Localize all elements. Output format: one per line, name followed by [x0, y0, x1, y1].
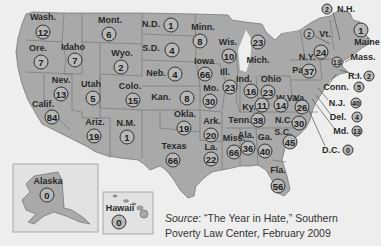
hate-group-count-badge-conn: 5: [354, 82, 365, 93]
hate-group-count-badge-alaska: 0: [40, 188, 55, 203]
state-label-conn: Conn.: [323, 83, 349, 92]
source-line1: : “The Year in Hate,” Southern: [198, 212, 338, 224]
state-label-idaho: Idaho: [61, 43, 85, 52]
state-label-calif: Calif.: [32, 100, 54, 109]
hate-group-count-badge-va: 26: [295, 100, 310, 115]
hate-group-count-badge-sc: 45: [283, 135, 298, 150]
hate-group-count-badge-fla: 56: [271, 179, 286, 194]
state-label-la: La.: [204, 143, 217, 152]
hate-group-count-badge-nc: 30: [292, 116, 307, 131]
state-label-ill: Ill.: [220, 68, 230, 77]
hate-group-count-badge-ark: 20: [204, 128, 219, 143]
state-label-okla: Okla.: [174, 110, 196, 119]
source-prefix: Source: [165, 212, 198, 224]
hate-group-count-badge-vt: 2: [304, 29, 315, 40]
state-label-ala: Ala.: [238, 131, 255, 140]
hate-group-count-badge-nev: 13: [54, 87, 69, 102]
state-label-ariz: Ariz.: [85, 118, 105, 127]
state-label-ohio: Ohio: [261, 75, 282, 84]
hate-group-count-badge-calif: 84: [45, 110, 60, 125]
state-label-mich: Mich.: [246, 56, 269, 65]
state-label-dc: D.C.: [322, 146, 340, 155]
state-label-mo: Mo.: [203, 84, 219, 93]
state-label-colo: Colo.: [119, 82, 142, 91]
state-label-nh: N.H.: [337, 5, 355, 14]
hate-group-count-badge-ala: 36: [241, 141, 256, 156]
hate-group-count-badge-wyo: 2: [114, 60, 129, 75]
hate-group-count-badge-wash: 12: [36, 25, 51, 40]
state-label-wash: Wash.: [30, 13, 56, 22]
state-label-nev: Nev.: [52, 76, 70, 85]
hate-group-count-badge-idaho: 7: [68, 53, 83, 68]
state-label-iowa: Iowa: [194, 57, 214, 66]
hate-group-count-badge-maine: 1: [354, 23, 369, 38]
hate-group-count-badge-iowa: 66: [198, 67, 213, 82]
state-label-hawaii: Hawaii: [106, 204, 135, 213]
state-label-tenn: Tenn.: [228, 116, 251, 125]
state-label-ark: Ark.: [203, 117, 221, 126]
hate-group-count-badge-mich: 23: [251, 35, 266, 50]
state-label-mont: Mont.: [98, 16, 122, 25]
hate-group-count-badge-minn: 8: [193, 34, 208, 49]
hate-group-count-badge-ore: 7: [34, 55, 49, 70]
state-label-nc: N.C.: [275, 116, 293, 125]
hate-group-count-badge-mo: 30: [203, 94, 218, 109]
state-label-kan: Kan.: [151, 93, 171, 102]
hate-group-count-badge-mass: 13: [332, 57, 343, 68]
hate-group-count-badge-sd: 4: [165, 43, 180, 58]
state-label-maine: Maine: [354, 38, 380, 47]
state-label-nm: N.M.: [117, 119, 136, 128]
hate-group-count-badge-ind: 16: [244, 84, 259, 99]
state-label-nj: N.J.: [329, 99, 346, 108]
source-line2: Poverty Law Center, February 2009: [165, 227, 331, 239]
hate-group-count-badge-pa: 37: [302, 64, 317, 79]
hate-group-count-badge-ny: 24: [314, 45, 329, 60]
state-label-alaska: Alaska: [33, 177, 62, 186]
hate-group-count-badge-neb: 4: [168, 67, 183, 82]
hate-group-count-badge-wis: 10: [222, 49, 237, 64]
hate-group-count-badge-nm: 1: [120, 130, 135, 145]
hate-group-count-badge-texas: 66: [166, 153, 181, 168]
hate-group-count-badge-ky: 11: [255, 98, 270, 113]
state-label-ri: R.I.: [348, 72, 362, 81]
hate-group-count-badge-miss: 66: [227, 145, 242, 160]
hate-group-count-badge-md: 13: [352, 126, 363, 137]
state-label-wis: Wis.: [219, 38, 237, 47]
hate-group-count-badge-tenn: 38: [251, 113, 266, 128]
state-label-nd: N.D.: [142, 20, 160, 29]
hate-group-count-badge-colo: 15: [126, 93, 141, 108]
hate-group-count-badge-utah: 5: [86, 91, 101, 106]
state-label-fla: Fla.: [270, 166, 286, 175]
source-citation: Source: “The Year in Hate,” Southern Pov…: [165, 211, 338, 241]
hate-group-count-badge-nd: 1: [164, 18, 179, 33]
hate-group-count-badge-hawaii: 0: [112, 215, 127, 230]
state-label-sd: S.D.: [142, 44, 160, 53]
state-label-minn: Minn.: [191, 23, 215, 32]
state-label-texas: Texas: [162, 142, 187, 151]
hate-group-count-badge-nj: 40: [351, 98, 362, 109]
hate-group-count-badge-wva: 14: [274, 98, 289, 113]
state-label-mass: Mass.: [350, 53, 375, 62]
hate-group-count-badge-kan: 8: [180, 91, 195, 106]
state-label-ore: Ore.: [29, 44, 47, 53]
hate-group-count-badge-ri: 2: [364, 71, 375, 82]
state-label-ga: Ga.: [258, 133, 273, 142]
hate-group-count-badge-la: 22: [204, 152, 219, 167]
hate-group-count-badge-nh: 2: [322, 4, 333, 15]
state-label-md: Md.: [333, 127, 349, 136]
hate-group-count-badge-del: 4: [352, 112, 363, 123]
state-label-wyo: Wyo.: [111, 49, 132, 58]
hate-group-count-badge-okla: 19: [177, 121, 192, 136]
state-label-ind: Ind.: [236, 75, 252, 84]
hate-group-count-badge-mont: 6: [102, 27, 117, 42]
state-label-neb: Neb.: [146, 69, 166, 78]
hate-group-count-badge-dc: 0: [343, 145, 354, 156]
hate-group-count-badge-ariz: 19: [87, 129, 102, 144]
state-label-utah: Utah: [81, 80, 101, 89]
hate-group-count-badge-ga: 40: [258, 144, 273, 159]
state-label-vt: Vt.: [319, 30, 331, 39]
state-label-del: Del.: [330, 113, 347, 122]
